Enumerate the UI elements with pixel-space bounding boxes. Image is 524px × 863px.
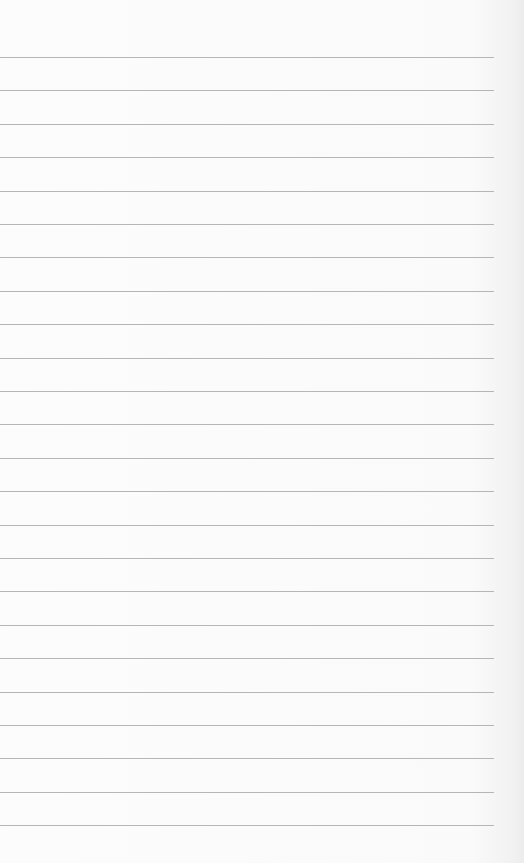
ruled-line [0, 658, 494, 659]
ruled-line [0, 358, 494, 359]
ruled-line [0, 57, 494, 58]
lined-paper-sheet [0, 0, 524, 863]
ruled-line [0, 157, 494, 158]
ruled-line [0, 90, 494, 91]
ruled-line [0, 758, 494, 759]
ruled-line [0, 725, 494, 726]
ruled-line [0, 792, 494, 793]
ruled-line [0, 191, 494, 192]
ruled-line [0, 391, 494, 392]
ruled-line [0, 558, 494, 559]
ruled-line [0, 692, 494, 693]
ruled-line [0, 491, 494, 492]
ruled-line [0, 424, 494, 425]
ruled-line [0, 291, 494, 292]
ruled-line [0, 257, 494, 258]
ruled-line [0, 625, 494, 626]
ruled-line [0, 124, 494, 125]
ruled-line [0, 458, 494, 459]
ruled-line [0, 825, 494, 826]
ruled-line [0, 525, 494, 526]
ruled-line [0, 324, 494, 325]
ruled-line [0, 224, 494, 225]
ruled-line [0, 591, 494, 592]
